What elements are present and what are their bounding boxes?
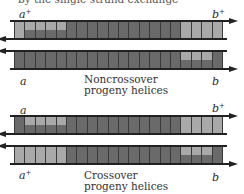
- label-b-bottom: b: [212, 74, 219, 87]
- arrow-right-icon: [229, 161, 238, 167]
- strand-line: [10, 163, 231, 165]
- strand-line: [4, 50, 227, 52]
- label-b-crossover-bottom: b: [212, 170, 219, 183]
- strand-line: [10, 68, 231, 70]
- label-a-bottom: a: [20, 74, 27, 87]
- helix-end: [222, 51, 223, 68]
- arrow-left-icon: [0, 131, 6, 137]
- arrow-left-icon: [0, 48, 6, 54]
- strand-line: [10, 115, 231, 117]
- caption-noncrossover-line2: progeny helices: [84, 85, 168, 96]
- helix-crossover-2: [14, 145, 223, 164]
- strand-line: [10, 20, 231, 22]
- strand-line: [4, 145, 227, 147]
- helix-noncrossover-2: [14, 50, 223, 69]
- caption-crossover-line2: progeny helices: [84, 181, 168, 192]
- strand-line: [4, 38, 227, 40]
- arrow-left-icon: [0, 36, 6, 42]
- arrow-right-icon: [229, 113, 238, 119]
- label-b-plus-top: b+: [212, 7, 225, 20]
- arrow-right-icon: [229, 66, 238, 72]
- label-a-plus-crossover-bottom: a+: [19, 168, 31, 181]
- label-b-plus-crossover-top: b+: [212, 101, 225, 114]
- strand-line: [4, 133, 227, 135]
- helix-crossover-1: [14, 115, 223, 134]
- arrow-right-icon: [229, 18, 238, 24]
- helix-noncrossover-1: [14, 20, 223, 39]
- helix-end: [222, 116, 223, 133]
- label-a-plus-top: a+: [19, 7, 31, 20]
- arrow-left-icon: [0, 143, 6, 149]
- helix-end: [222, 21, 223, 38]
- cropped-top-text: by the single-strand exchange: [18, 0, 178, 5]
- helix-end: [222, 146, 223, 163]
